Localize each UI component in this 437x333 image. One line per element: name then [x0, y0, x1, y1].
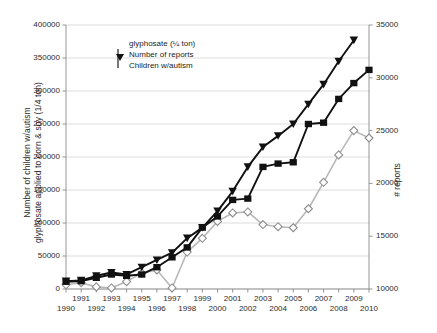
filled-square-icon: [116, 39, 125, 48]
plot-area: [0, 0, 437, 333]
series-0: [62, 67, 372, 285]
legend-label-autism: Children w/autism: [129, 61, 193, 70]
series-2: [62, 37, 358, 285]
axis-spines: [63, 25, 373, 293]
chart-legend: glyphosate (¼ ton) Number of reports Chi…: [116, 38, 195, 71]
legend-item-autism: Children w/autism: [116, 60, 195, 70]
legend-item-reports: Number of reports: [116, 49, 195, 59]
gridlines: [66, 25, 369, 289]
legend-label-glyphosate: glyphosate (¼ ton): [129, 39, 195, 48]
legend-label-reports: Number of reports: [129, 50, 193, 59]
legend-item-glyphosate: glyphosate (¼ ton): [116, 38, 195, 48]
chart-figure: Number of children w/autism glyphosate a…: [0, 0, 437, 333]
filled-triangle-icon: [116, 61, 125, 70]
